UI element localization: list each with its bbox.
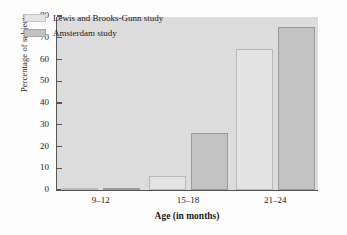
chart-legend: Lewis and Brooks-Gunn studyAmsterdam stu…: [24, 11, 163, 41]
x-tick-label: 15–18: [158, 195, 218, 205]
y-tick-label: 40: [40, 97, 49, 108]
x-tick-label: 9–12: [71, 195, 131, 205]
y-tick-label: 30: [40, 119, 49, 130]
legend-label: Lewis and Brooks-Gunn study: [53, 13, 163, 23]
plot-area: 01020304050607080 9–1215–1821–24: [56, 17, 318, 191]
bar-amsterdam-1: [191, 133, 228, 190]
y-tick-mark: [57, 168, 62, 169]
x-tick-label: 21–24: [245, 195, 305, 205]
y-tick-mark: [57, 124, 62, 125]
legend-label: Amsterdam study: [53, 28, 117, 38]
legend-item-0: Lewis and Brooks-Gunn study: [24, 11, 163, 24]
bar-amsterdam-2: [278, 27, 315, 190]
y-tick-mark: [57, 81, 62, 82]
bar-lewis-2: [236, 49, 273, 190]
y-tick-label: 50: [40, 75, 49, 86]
x-axis-title: Age (in months): [56, 211, 318, 221]
y-tick-label: 0: [45, 184, 50, 195]
y-tick-mark: [57, 102, 62, 103]
legend-item-1: Amsterdam study: [24, 26, 163, 39]
bar-amsterdam-0: [103, 188, 140, 190]
y-tick-mark: [57, 59, 62, 60]
y-tick-label: 10: [40, 162, 49, 173]
bar-lewis-0: [61, 188, 98, 190]
bar-lewis-1: [149, 176, 186, 190]
legend-swatch-amsterdam: [24, 29, 46, 37]
y-tick-label: 60: [40, 54, 49, 65]
legend-swatch-lewis: [24, 14, 46, 22]
chart-figure: Percentage of subjects 01020304050607080…: [0, 0, 347, 235]
y-tick-label: 20: [40, 141, 49, 152]
y-tick-mark: [57, 146, 62, 147]
